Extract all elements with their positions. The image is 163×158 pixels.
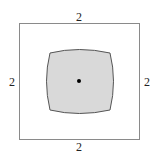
label-left: 2 <box>9 76 15 88</box>
label-right: 2 <box>144 76 150 88</box>
center-point <box>77 79 81 83</box>
label-top: 2 <box>76 11 82 23</box>
label-bottom: 2 <box>76 141 82 153</box>
